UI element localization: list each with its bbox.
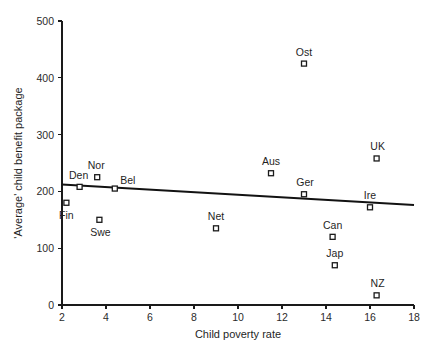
data-point-uk: UK — [370, 140, 385, 161]
x-tick-label-12: 12 — [276, 311, 288, 323]
x-tick-label-4: 4 — [103, 311, 109, 323]
marker-square-ger — [302, 192, 307, 197]
point-label-uk: UK — [370, 140, 385, 152]
y-axis-title: 'Average' child benefit package — [12, 87, 24, 238]
point-label-den: Den — [69, 169, 88, 181]
x-tick-label-2: 2 — [59, 311, 65, 323]
y-tick-label-200: 200 — [36, 185, 54, 197]
y-tick-label-500: 500 — [36, 15, 54, 27]
x-axis: 24681012141618 — [59, 305, 420, 323]
data-point-aus: Aus — [262, 155, 280, 176]
marker-square-ost — [302, 61, 307, 66]
point-label-nz: NZ — [371, 277, 386, 289]
data-point-can: Can — [323, 219, 342, 240]
figure-caption — [8, 338, 422, 349]
point-label-aus: Aus — [262, 155, 280, 167]
marker-square-aus — [269, 171, 274, 176]
data-point-jap: Jap — [326, 247, 343, 268]
chart-figure: 0100200300400500 24681012141618 FinDenNo… — [0, 0, 430, 349]
marker-square-swe — [97, 217, 102, 222]
marker-square-net — [214, 226, 219, 231]
point-label-swe: Swe — [90, 226, 111, 238]
scatter-plot: 0100200300400500 24681012141618 FinDenNo… — [0, 0, 430, 349]
point-label-can: Can — [323, 219, 342, 231]
data-points: FinDenNorSweBelNetAusGerOstCanJapIreUKNZ — [59, 46, 385, 298]
y-tick-label-300: 300 — [36, 129, 54, 141]
data-point-net: Net — [208, 210, 224, 231]
data-point-nz: NZ — [371, 277, 386, 298]
data-point-ire: Ire — [364, 189, 376, 210]
data-point-ost: Ost — [296, 46, 312, 67]
x-tick-label-6: 6 — [147, 311, 153, 323]
x-tick-label-16: 16 — [364, 311, 376, 323]
x-tick-label-10: 10 — [232, 311, 244, 323]
data-point-nor: Nor — [88, 159, 105, 180]
marker-square-den — [77, 184, 82, 189]
marker-square-bel — [112, 186, 117, 191]
marker-square-nz — [374, 293, 379, 298]
x-tick-label-14: 14 — [320, 311, 332, 323]
point-label-nor: Nor — [88, 159, 105, 171]
point-label-jap: Jap — [326, 247, 343, 259]
y-tick-label-100: 100 — [36, 242, 54, 254]
y-tick-label-0: 0 — [48, 299, 54, 311]
point-label-fin: Fin — [59, 209, 74, 221]
y-axis: 0100200300400500 — [36, 15, 62, 311]
marker-square-jap — [332, 263, 337, 268]
data-point-swe: Swe — [90, 217, 111, 238]
y-tick-label-400: 400 — [36, 72, 54, 84]
marker-square-ire — [368, 205, 373, 210]
marker-square-fin — [64, 200, 69, 205]
marker-square-uk — [374, 156, 379, 161]
x-tick-label-18: 18 — [408, 311, 420, 323]
x-tick-label-8: 8 — [191, 311, 197, 323]
point-label-ost: Ost — [296, 46, 312, 58]
marker-square-can — [330, 234, 335, 239]
point-label-ger: Ger — [296, 176, 314, 188]
point-label-bel: Bel — [120, 174, 135, 186]
point-label-ire: Ire — [364, 189, 376, 201]
point-label-net: Net — [208, 210, 224, 222]
marker-square-nor — [95, 175, 100, 180]
data-point-ger: Ger — [296, 176, 314, 197]
data-point-fin: Fin — [59, 200, 74, 221]
